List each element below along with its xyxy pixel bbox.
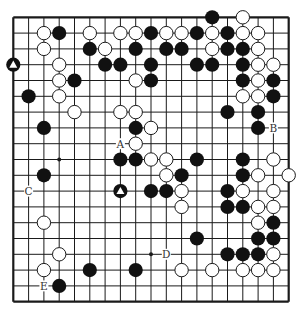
white-stone[interactable] (53, 90, 66, 103)
white-stone[interactable] (206, 263, 219, 276)
white-stone[interactable] (236, 184, 249, 197)
white-stone[interactable] (251, 216, 264, 229)
go-board[interactable]: ABCDE (0, 0, 301, 312)
black-stone[interactable] (236, 58, 250, 72)
point-label-e[interactable]: E (39, 280, 48, 292)
white-stone[interactable] (175, 26, 188, 39)
black-stone[interactable] (266, 89, 280, 103)
black-stone[interactable] (129, 152, 143, 166)
black-stone[interactable] (144, 26, 158, 40)
black-stone[interactable] (236, 168, 250, 182)
black-stone[interactable] (52, 26, 66, 40)
white-stone[interactable] (160, 169, 173, 182)
white-stone[interactable] (129, 74, 142, 87)
white-stone[interactable] (282, 169, 295, 182)
black-stone[interactable] (159, 42, 173, 56)
black-stone[interactable] (236, 73, 250, 87)
white-stone[interactable] (251, 58, 264, 71)
black-stone[interactable] (83, 42, 97, 56)
black-stone[interactable] (266, 216, 280, 230)
white-stone[interactable] (114, 105, 127, 118)
white-stone[interactable] (206, 42, 219, 55)
white-stone[interactable] (236, 26, 249, 39)
white-stone[interactable] (37, 263, 50, 276)
black-stone[interactable] (190, 58, 204, 72)
black-stone[interactable] (22, 89, 36, 103)
white-stone[interactable] (129, 105, 142, 118)
white-stone[interactable] (251, 169, 264, 182)
white-stone[interactable] (206, 26, 219, 39)
black-stone[interactable] (205, 58, 219, 72)
black-stone[interactable] (220, 26, 234, 40)
white-stone[interactable] (160, 26, 173, 39)
white-stone[interactable] (37, 26, 50, 39)
black-stone[interactable] (220, 42, 234, 56)
black-stone[interactable] (251, 105, 265, 119)
black-stone[interactable] (98, 58, 112, 72)
black-stone[interactable] (159, 184, 173, 198)
black-stone[interactable] (251, 231, 265, 245)
white-stone[interactable] (251, 42, 264, 55)
white-stone[interactable] (175, 263, 188, 276)
white-stone[interactable] (236, 11, 249, 24)
white-stone[interactable] (83, 26, 96, 39)
white-stone[interactable] (267, 263, 280, 276)
black-stone[interactable] (144, 73, 158, 87)
white-stone[interactable] (267, 184, 280, 197)
white-stone[interactable] (251, 263, 264, 276)
black-stone[interactable] (190, 231, 204, 245)
white-stone[interactable] (68, 105, 81, 118)
white-stone[interactable] (53, 58, 66, 71)
black-stone[interactable] (251, 247, 265, 261)
white-stone[interactable] (160, 153, 173, 166)
white-stone[interactable] (129, 26, 142, 39)
white-stone[interactable] (37, 42, 50, 55)
black-stone[interactable] (220, 184, 234, 198)
black-stone[interactable] (266, 73, 280, 87)
white-stone[interactable] (129, 137, 142, 150)
white-stone[interactable] (53, 248, 66, 261)
white-stone[interactable] (98, 42, 111, 55)
black-stone[interactable] (175, 168, 189, 182)
black-stone[interactable] (175, 42, 189, 56)
black-stone[interactable] (37, 168, 51, 182)
black-stone[interactable] (6, 58, 20, 72)
black-stone[interactable] (220, 200, 234, 214)
black-stone[interactable] (83, 263, 97, 277)
black-stone[interactable] (144, 184, 158, 198)
white-stone[interactable] (267, 248, 280, 261)
white-stone[interactable] (175, 200, 188, 213)
black-stone[interactable] (190, 152, 204, 166)
black-stone[interactable] (236, 247, 250, 261)
white-stone[interactable] (144, 121, 157, 134)
black-stone[interactable] (205, 10, 219, 24)
black-stone[interactable] (236, 200, 250, 214)
white-stone[interactable] (144, 153, 157, 166)
white-stone[interactable] (267, 153, 280, 166)
black-stone[interactable] (220, 247, 234, 261)
white-stone[interactable] (251, 26, 264, 39)
white-stone[interactable] (53, 74, 66, 87)
white-stone[interactable] (236, 263, 249, 276)
white-stone[interactable] (236, 90, 249, 103)
black-stone[interactable] (67, 73, 81, 87)
black-stone[interactable] (251, 121, 265, 135)
point-label-d[interactable]: D (162, 248, 171, 260)
black-stone[interactable] (129, 42, 143, 56)
point-label-b[interactable]: B (269, 122, 278, 134)
white-stone[interactable] (267, 58, 280, 71)
black-stone[interactable] (113, 184, 127, 198)
black-stone[interactable] (37, 121, 51, 135)
black-stone[interactable] (129, 121, 143, 135)
black-stone[interactable] (113, 58, 127, 72)
white-stone[interactable] (267, 200, 280, 213)
white-stone[interactable] (251, 74, 264, 87)
white-stone[interactable] (175, 184, 188, 197)
point-label-a[interactable]: A (116, 138, 125, 150)
black-stone[interactable] (129, 263, 143, 277)
black-stone[interactable] (220, 105, 234, 119)
white-stone[interactable] (251, 200, 264, 213)
black-stone[interactable] (144, 58, 158, 72)
white-stone[interactable] (37, 216, 50, 229)
black-stone[interactable] (236, 42, 250, 56)
